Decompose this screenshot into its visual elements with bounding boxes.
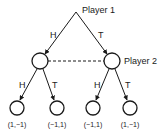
payoff-label-2: (−1,1) — [48, 121, 66, 129]
action-label-left-h: H — [19, 80, 26, 90]
action-label-right-t: T — [125, 80, 131, 90]
game-tree-diagram: Player 1 Player 2 H T H T H T (1,−1) (−1… — [0, 0, 165, 133]
leaf-node-3 — [86, 101, 100, 115]
payoff-label-1: (1,−1) — [8, 121, 26, 129]
leaf-node-1 — [10, 101, 24, 115]
player1-label: Player 1 — [82, 5, 115, 15]
player2-node-right — [104, 53, 120, 69]
payoff-label-4: (1,−1) — [121, 121, 139, 129]
action-label-right-h: H — [94, 80, 101, 90]
player2-label: Player 2 — [124, 56, 157, 66]
payoff-label-3: (−1,1) — [84, 121, 102, 129]
leaf-node-4 — [123, 101, 137, 115]
leaf-node-2 — [50, 101, 64, 115]
player2-node-left — [32, 53, 48, 69]
action-label-root-h: H — [50, 30, 57, 40]
action-label-left-t: T — [52, 80, 58, 90]
action-label-root-t: T — [98, 30, 104, 40]
